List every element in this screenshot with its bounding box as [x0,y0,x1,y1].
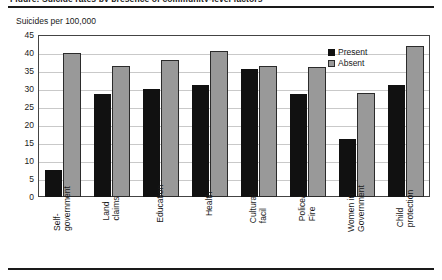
x-axis-category-labels: Self- governmentLand claimsEducationHeal… [38,199,430,265]
x-axis-category-label-text: Cultural facil [249,194,268,223]
legend-label: Absent [338,58,364,69]
x-axis-category-label: Education [136,199,185,265]
gridline [39,108,429,109]
legend-item: Absent [328,58,367,69]
gridline [39,126,429,127]
y-axis-tick-label: 30 [4,85,34,94]
gridline [39,72,429,73]
x-axis-category-label-text: Land claims [102,196,121,220]
y-axis-tick-label: 25 [4,103,34,112]
x-axis-category-label-text: Self- government [53,186,72,231]
figure-caption-clipped: Figure: Suicide rates by presence of com… [10,0,430,2]
gridline [39,162,429,163]
y-axis-tick-labels: 454035302520151050 [0,35,34,197]
x-axis-category-label: Women in Government [332,199,381,265]
x-axis-category-label-text: Child protection [396,190,415,227]
x-axis-category-label-text: Health [205,191,215,216]
x-axis-category-label-text: Women in Government [347,185,366,232]
y-axis-tick-label: 45 [4,31,34,40]
gridline [39,90,429,91]
plot-area [38,35,430,197]
x-axis-category-label-text: Education [156,185,166,223]
x-axis-category-label: Cultural facil [234,199,283,265]
figure-container: Figure: Suicide rates by presence of com… [0,0,442,280]
y-axis-tick-label: 15 [4,139,34,148]
gridline [39,54,429,55]
x-axis-category-label: Police/ Fire [283,199,332,265]
legend-item: Present [328,47,367,58]
chart-legend: PresentAbsent [328,47,367,69]
y-axis-title: Suicides per 100,000 [16,16,96,26]
y-axis-tick-label: 5 [4,175,34,184]
y-axis-tick-label: 40 [4,49,34,58]
x-axis-category-label: Health [185,199,234,265]
y-axis-tick-label: 35 [4,67,34,76]
x-axis-category-label: Child protection [381,199,430,265]
x-axis-category-label: Land claims [87,199,136,265]
legend-swatch-icon [328,49,335,56]
gridline [39,144,429,145]
y-axis-tick-label: 20 [4,121,34,130]
bottom-rule [8,268,434,270]
top-rule [8,6,434,8]
x-axis-category-label-text: Police/ Fire [298,196,317,222]
legend-label: Present [338,47,367,58]
y-axis-tick-label: 0 [4,193,34,202]
x-axis-category-label: Self- government [38,199,87,265]
y-axis-tick-label: 10 [4,157,34,166]
gridline [39,180,429,181]
legend-swatch-icon [328,60,335,67]
